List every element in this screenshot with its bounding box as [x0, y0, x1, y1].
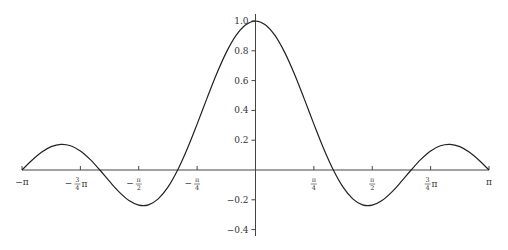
svg-text:π: π [137, 176, 142, 184]
chart: −π−34π−π2−π4π4π234ππ 1.00.80.60.40.2−0.2… [0, 0, 508, 250]
y-tick-label: 0.8 [234, 46, 249, 56]
svg-text:2: 2 [137, 184, 141, 192]
svg-text:−: − [126, 178, 134, 188]
x-tick-label: −π [15, 177, 29, 187]
y-ticks: 1.00.80.60.40.2−0.2−0.4 [227, 16, 256, 235]
svg-text:4: 4 [75, 184, 79, 192]
svg-text:3: 3 [75, 176, 79, 184]
x-tick-label: 34π [425, 176, 438, 192]
svg-text:4: 4 [195, 184, 199, 192]
svg-text:π: π [312, 176, 317, 184]
x-tick-label: π [486, 177, 492, 187]
svg-text:π: π [432, 179, 438, 189]
svg-text:−: − [185, 178, 193, 188]
svg-text:4: 4 [426, 184, 430, 192]
x-tick-label: −π4 [185, 176, 201, 192]
svg-text:π: π [370, 176, 375, 184]
svg-text:−π: −π [15, 177, 29, 187]
y-tick-label: 0.2 [234, 135, 248, 145]
x-axis: −π−34π−π2−π4π4π234ππ [15, 166, 492, 192]
x-tick-label: −34π [65, 176, 88, 192]
svg-text:−: − [65, 178, 73, 188]
x-tick-label: π4 [311, 176, 317, 192]
svg-text:2: 2 [370, 184, 374, 192]
x-tick-label: π2 [369, 176, 375, 192]
y-tick-label: 0.6 [234, 76, 249, 86]
svg-text:π: π [486, 177, 492, 187]
svg-text:4: 4 [312, 184, 316, 192]
svg-text:π: π [81, 179, 87, 189]
svg-text:3: 3 [426, 176, 430, 184]
y-tick-label: −0.4 [227, 225, 249, 235]
y-axis: 1.00.80.60.40.2−0.2−0.4 [227, 14, 256, 236]
svg-text:π: π [195, 176, 200, 184]
y-tick-label: 0.4 [234, 105, 249, 115]
y-tick-label: −0.2 [227, 195, 249, 205]
x-tick-label: −π2 [126, 176, 142, 192]
